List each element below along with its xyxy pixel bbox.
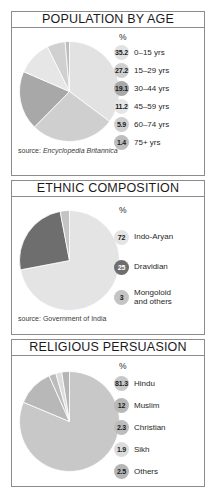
- panel-ethnic-composition: ETHNIC COMPOSITION % 72 Indo-Aryan 25 Dr…: [11, 180, 205, 335]
- legend-label: 75+ yrs: [134, 138, 160, 148]
- list-item: 2.5 Others: [114, 463, 200, 480]
- list-item: 81.3 Hindu: [114, 375, 200, 392]
- list-item: 12 Muslim: [114, 397, 200, 414]
- legend-label: Others: [134, 467, 158, 477]
- legend-label: Mongoloid and others: [134, 288, 172, 307]
- list-item: 11.2 45–59 yrs: [114, 98, 200, 115]
- page-title: ETHNIC COMPOSITION: [37, 182, 180, 195]
- page-title: POPULATION BY AGE: [42, 13, 174, 26]
- panel-population-by-age: POPULATION BY AGE % 35.2 0–15 yrs 27.2 1…: [11, 11, 205, 176]
- panel-religious-persuasion: RELIGIOUS PERSUASION % 81.3 Hindu 12 Mus…: [11, 339, 205, 487]
- legend-label: Dravidian: [134, 262, 168, 272]
- pie-chart-religious: [18, 370, 121, 473]
- source-note: source: Encyclopedia Britannica: [18, 147, 123, 156]
- list-item: 25 Dravidian: [114, 255, 200, 279]
- list-item: 5.9 60–74 yrs: [114, 116, 200, 133]
- legend-label: Hindu: [134, 379, 155, 389]
- source-label: source:: [18, 315, 43, 322]
- legend-label: 60–74 yrs: [134, 120, 169, 130]
- source-note: source: Government of India: [18, 315, 123, 324]
- panel-header: ETHNIC COMPOSITION: [12, 181, 204, 197]
- pie-svg: [18, 40, 121, 143]
- panel-body: % 35.2 0–15 yrs 27.2 15–29 yrs 19.1 30–4…: [12, 28, 204, 175]
- legend-label: Muslim: [134, 401, 159, 411]
- list-item: 72 Indo-Aryan: [114, 225, 200, 249]
- legend-label: 30–44 yrs: [134, 84, 169, 94]
- status-badge: 11.2: [114, 99, 129, 114]
- source-name: Government of India: [43, 315, 106, 322]
- pie-svg: [18, 209, 121, 312]
- status-badge: 2.3: [114, 420, 129, 435]
- status-badge: 25: [114, 260, 129, 275]
- panel-body: % 72 Indo-Aryan 25 Dravidian 3 Mongoloid…: [12, 197, 204, 334]
- panel-header: POPULATION BY AGE: [12, 12, 204, 28]
- percent-header: %: [119, 32, 200, 42]
- panel-header: RELIGIOUS PERSUASION: [12, 340, 204, 356]
- status-badge: 2.5: [114, 464, 129, 479]
- list-item: 35.2 0–15 yrs: [114, 44, 200, 61]
- status-badge: 27.2: [114, 63, 129, 78]
- page-title: RELIGIOUS PERSUASION: [29, 341, 187, 354]
- pie-slices: [20, 372, 120, 472]
- source-label: source:: [18, 147, 43, 154]
- legend-ethnic: % 72 Indo-Aryan 25 Dravidian 3 Mongoloid…: [114, 205, 200, 310]
- list-item: 19.1 30–44 yrs: [114, 80, 200, 97]
- status-badge: 5.9: [114, 117, 129, 132]
- legend-population: % 35.2 0–15 yrs 27.2 15–29 yrs 19.1 30–4…: [114, 32, 200, 152]
- list-item: 27.2 15–29 yrs: [114, 62, 200, 79]
- list-item: 2.3 Christian: [114, 419, 200, 436]
- legend-label: Sikh: [134, 445, 150, 455]
- legend-label: 0–15 yrs: [134, 48, 165, 58]
- source-name: Encyclopedia Britannica: [43, 147, 118, 154]
- list-item: 3 Mongoloid and others: [114, 285, 200, 309]
- pie-slices: [20, 211, 120, 311]
- legend-label: 15–29 yrs: [134, 66, 169, 76]
- status-badge: 81.3: [114, 376, 129, 391]
- legend-label: 45–59 yrs: [134, 102, 169, 112]
- status-badge: 3: [114, 290, 129, 305]
- status-badge: 1.9: [114, 442, 129, 457]
- status-badge: 35.2: [114, 45, 129, 60]
- list-item: 1.4 75+ yrs: [114, 134, 200, 151]
- pie-chart-ethnic: [18, 209, 121, 312]
- status-badge: 19.1: [114, 81, 129, 96]
- pie-chart-population: [18, 40, 121, 143]
- percent-header: %: [119, 205, 200, 215]
- pie-svg: [18, 370, 121, 473]
- legend-religious: % 81.3 Hindu 12 Muslim 2.3 Christian 1.9…: [114, 361, 200, 481]
- pie-slices: [19, 41, 119, 141]
- status-badge: 12: [114, 398, 129, 413]
- legend-label: Indo-Aryan: [134, 232, 173, 242]
- panel-body: % 81.3 Hindu 12 Muslim 2.3 Christian 1.9…: [12, 356, 204, 486]
- status-badge: 72: [114, 230, 129, 245]
- percent-header: %: [119, 361, 200, 371]
- infographic-sheet: POPULATION BY AGE % 35.2 0–15 yrs 27.2 1…: [11, 11, 205, 487]
- legend-label: Christian: [134, 423, 166, 433]
- list-item: 1.9 Sikh: [114, 441, 200, 458]
